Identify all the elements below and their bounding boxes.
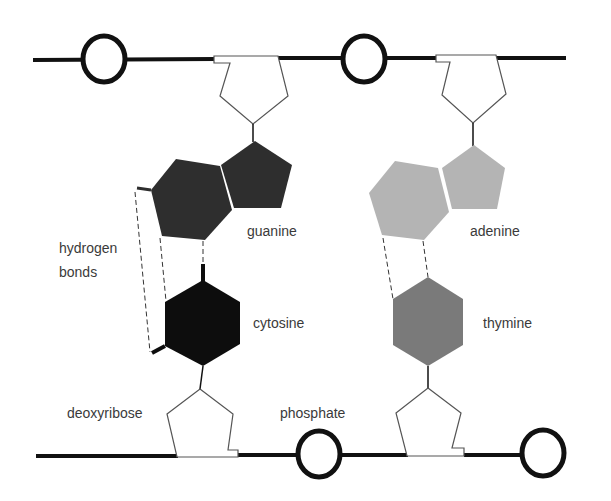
- deoxyribose-top-1: [214, 56, 288, 124]
- top-backbone: [33, 36, 566, 146]
- bottom-backbone: [36, 388, 564, 477]
- phosphate-bottom-2: [522, 430, 564, 476]
- label-adenine: adenine: [470, 221, 520, 241]
- guanine-hexagon: [151, 159, 232, 240]
- label-cytosine: cytosine: [253, 313, 304, 333]
- label-phosphate: phosphate: [280, 403, 345, 423]
- phosphate-top-1: [83, 36, 125, 82]
- label-thymine: thymine: [483, 313, 532, 333]
- cytosine-hexagon: [165, 280, 240, 366]
- label-hydrogen-line2: bonds: [59, 262, 97, 282]
- phosphate-bottom-1: [298, 431, 340, 477]
- deoxyribose-top-2: [436, 55, 506, 123]
- phosphate-top-2: [343, 36, 385, 82]
- cytosine-molecule: [152, 264, 240, 389]
- label-guanine: guanine: [247, 221, 297, 241]
- adenine-pentagon: [442, 145, 505, 209]
- thymine-molecule: [393, 277, 463, 388]
- guanine-pentagon: [221, 141, 292, 208]
- label-hydrogen-line1: hydrogen: [59, 238, 117, 258]
- deoxyribose-bottom-1: [167, 389, 238, 457]
- deoxyribose-bottom-2: [396, 388, 464, 456]
- thymine-hexagon: [393, 277, 463, 366]
- label-deoxyribose: deoxyribose: [67, 403, 143, 423]
- adenine-hexagon: [369, 161, 449, 240]
- dna-diagram: guanine adenine hydrogen bonds cytosine …: [0, 0, 611, 501]
